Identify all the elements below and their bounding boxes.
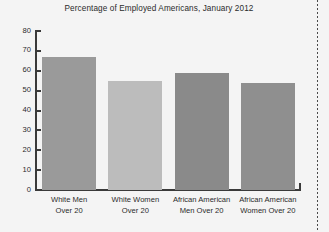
y-axis-tick-mark (35, 189, 41, 191)
y-axis-tick-label: 40 (0, 105, 31, 114)
bar (241, 83, 295, 190)
x-axis-category-label-line: African American (229, 195, 307, 206)
y-axis-tick-mark (35, 50, 41, 52)
bar (175, 73, 229, 190)
y-axis-tick-label: 80 (0, 26, 31, 35)
chart-title: Percentage of Employed Americans, Januar… (0, 4, 318, 13)
bar (108, 81, 162, 190)
y-axis-tick-label: 0 (0, 185, 31, 194)
y-axis-tick-label: 10 (0, 165, 31, 174)
y-axis-tick-mark (35, 70, 41, 72)
y-axis-tick-label: 20 (0, 145, 31, 154)
x-axis-category-label: African AmericanWomen Over 20 (229, 195, 307, 216)
y-axis-tick-mark (35, 129, 41, 131)
y-axis-tick-mark (35, 110, 41, 112)
x-axis-end-tick (299, 183, 301, 191)
y-axis-tick-label: 60 (0, 65, 31, 74)
y-axis-tick-label: 70 (0, 45, 31, 54)
y-axis-tick-mark (35, 30, 41, 32)
bar (42, 57, 96, 190)
x-axis-category-label-line: Women Over 20 (229, 206, 307, 217)
y-axis-tick-label: 30 (0, 125, 31, 134)
y-axis-tick-mark (35, 90, 41, 92)
bar-chart-figure: Percentage of Employed Americans, Januar… (0, 0, 329, 232)
y-axis-tick-mark (35, 169, 41, 171)
y-axis-tick-label: 50 (0, 85, 31, 94)
page-edge-dotted-rule (317, 0, 318, 232)
y-axis-tick-mark (35, 149, 41, 151)
